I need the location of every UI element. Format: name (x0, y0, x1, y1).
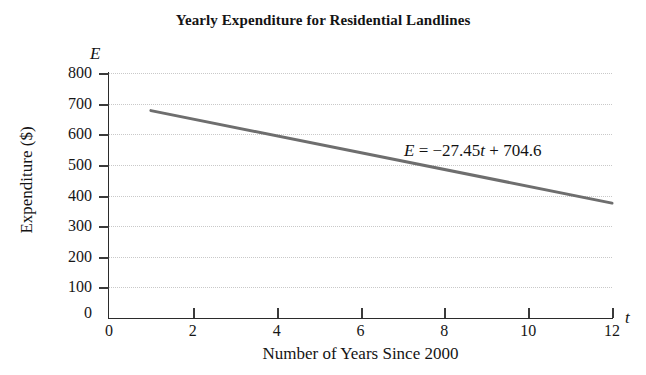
gridline-700 (109, 104, 612, 105)
gridline-600 (109, 134, 612, 135)
x-tick-mark-8 (444, 308, 446, 318)
y-tick-label-text: 600 (46, 126, 92, 142)
x-tick-mark-4 (277, 308, 279, 318)
y-axis-symbol: E (90, 44, 100, 64)
y-tick-mark-800 (99, 73, 109, 75)
y-tick-mark-400 (99, 196, 109, 198)
y-tick-label-text: 800 (46, 65, 92, 81)
y-tick-mark-500 (99, 165, 109, 167)
gridline-800 (109, 73, 612, 74)
gridline-300 (109, 226, 612, 227)
y-tick-mark-100 (99, 287, 109, 289)
gridline-200 (109, 257, 612, 258)
x-tick-label-4: 4 (257, 322, 297, 340)
equation-plus: + (489, 141, 499, 160)
x-tick-mark-10 (528, 308, 530, 318)
y-tick-label-text: 0 (46, 305, 92, 321)
y-tick-mark-700 (99, 104, 109, 106)
x-tick-mark-2 (193, 308, 195, 318)
gridline-100 (109, 287, 612, 288)
equation-intercept: 704.6 (503, 141, 541, 160)
x-tick-mark-12 (612, 308, 614, 318)
plot-area (109, 73, 612, 318)
x-tick-mark-6 (361, 308, 363, 318)
y-tick-label-text: 300 (46, 218, 92, 234)
gridline-400 (109, 196, 612, 197)
gridline-500 (109, 165, 612, 166)
y-tick-label-text: 100 (46, 279, 92, 295)
equation-equals: = (419, 141, 429, 160)
y-tick-mark-600 (99, 134, 109, 136)
y-axis-title: Expenditure ($) (17, 75, 37, 285)
y-tick-mark-300 (99, 226, 109, 228)
equation-lhs: E (404, 141, 414, 160)
chart-figure: Yearly Expenditure for Residential Landl… (0, 0, 646, 375)
x-tick-label-2: 2 (173, 322, 213, 340)
x-tick-label-8: 8 (424, 322, 464, 340)
equation-slope-var: t (480, 141, 485, 160)
x-axis-title: Number of Years Since 2000 (109, 344, 612, 364)
y-tick-mark-200 (99, 257, 109, 259)
x-axis-line (108, 318, 613, 319)
chart-title: Yearly Expenditure for Residential Landl… (0, 12, 646, 29)
x-tick-label-6: 6 (341, 322, 381, 340)
x-tick-label-12: 12 (592, 322, 632, 340)
y-tick-label-text: 400 (46, 188, 92, 204)
x-tick-label-0: 0 (89, 322, 129, 340)
y-tick-label-text: 700 (46, 96, 92, 112)
y-tick-label-text: 200 (46, 249, 92, 265)
equation-annotation: E = −27.45t + 704.6 (404, 141, 541, 161)
y-tick-label-text: 500 (46, 157, 92, 173)
x-tick-label-10: 10 (508, 322, 548, 340)
equation-slope: −27.45 (432, 141, 480, 160)
